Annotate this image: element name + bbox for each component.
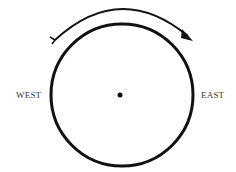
rotation-diagram: [0, 0, 236, 172]
west-label: WEST: [16, 90, 41, 100]
east-label: EAST: [201, 90, 224, 100]
arrowhead-icon: [181, 29, 193, 41]
arrow-tail-icon: [50, 37, 55, 44]
center-dot: [118, 93, 123, 98]
